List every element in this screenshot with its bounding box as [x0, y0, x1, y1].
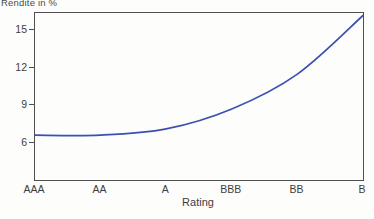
x-axis-title: Rating [34, 197, 362, 208]
y-tick-label: 12 [6, 62, 27, 73]
x-tick-label: AA [93, 184, 107, 195]
x-tick-label: BBB [220, 184, 241, 195]
y-tick-label: 15 [6, 24, 27, 35]
x-tick-label: BB [289, 184, 303, 195]
y-tick-label: 6 [6, 136, 27, 147]
yield-vs-rating-chart: Rendite in % 691215 AAAAAABBBBBB Rating [0, 0, 374, 219]
x-tick-label: B [358, 184, 365, 195]
y-tick-mark [29, 29, 34, 30]
y-tick-mark [29, 142, 34, 143]
yield-curve-plot [35, 13, 363, 180]
y-tick-label: 9 [6, 99, 27, 110]
chart-title: Rendite in % [1, 0, 57, 8]
yield-curve-line [35, 15, 363, 135]
x-tick-label: A [162, 184, 169, 195]
x-tick-label: AAA [23, 184, 44, 195]
plot-area [34, 12, 364, 181]
y-tick-mark [29, 104, 34, 105]
y-tick-mark [29, 67, 34, 68]
